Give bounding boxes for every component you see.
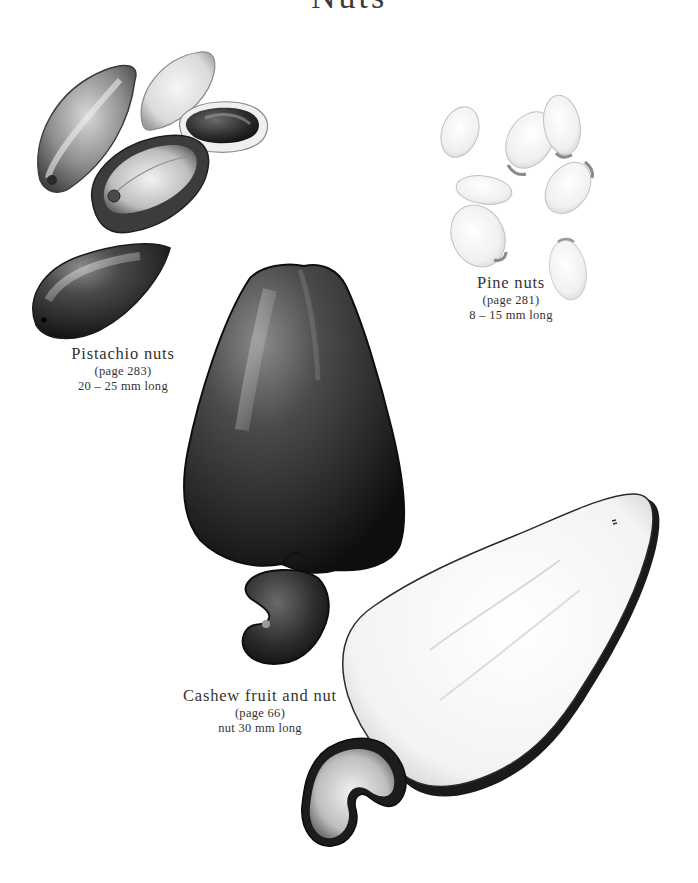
- cashew-whole-fruit-illustration: [184, 265, 404, 665]
- pine-nuts-illustration: [434, 92, 600, 302]
- caption-size: 8 – 15 mm long: [436, 308, 586, 323]
- caption-name: Pine nuts: [436, 273, 586, 293]
- caption-page-ref: (page 66): [155, 706, 365, 721]
- caption-size: 20 – 25 mm long: [38, 379, 208, 394]
- caption-name: Pistachio nuts: [38, 344, 208, 364]
- caption-pistachio: Pistachio nuts (page 283) 20 – 25 mm lon…: [38, 344, 208, 394]
- caption-pine-nuts: Pine nuts (page 281) 8 – 15 mm long: [436, 273, 586, 323]
- caption-name: Cashew fruit and nut: [155, 686, 365, 706]
- caption-page-ref: (page 281): [436, 293, 586, 308]
- caption-size: nut 30 mm long: [155, 721, 365, 736]
- caption-page-ref: (page 283): [38, 364, 208, 379]
- pistachio-illustration: [33, 52, 268, 339]
- caption-cashew: Cashew fruit and nut (page 66) nut 30 mm…: [155, 686, 365, 736]
- botanical-illustrations: [0, 0, 698, 883]
